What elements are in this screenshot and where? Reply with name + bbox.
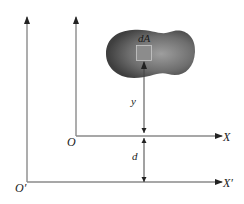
label-axis-x: X [222, 130, 231, 144]
y-dimension-arrow-bottom [142, 128, 147, 133]
label-distance-d: d [132, 150, 138, 162]
label-origin-outer: O′ [15, 181, 27, 195]
label-axis-x-prime: X′ [222, 176, 233, 190]
label-area-element: dA [138, 32, 151, 44]
d-dimension-arrow-top [142, 138, 147, 143]
d-dimension-arrow-bottom [142, 177, 147, 182]
label-origin-inner: O [67, 135, 76, 149]
diagram-canvas: dA y d O O′ X X′ [0, 0, 244, 204]
label-distance-y: y [130, 95, 136, 107]
area-element-dA [137, 46, 152, 61]
